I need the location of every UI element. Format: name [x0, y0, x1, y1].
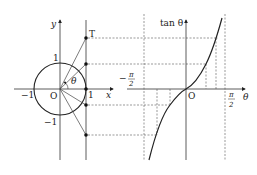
unit-circle-plot: y x O −1 1 1 −1 T θ [14, 19, 113, 160]
right-y-axis-label: tan θ [160, 18, 183, 28]
tick-x-neg-1: −1 [21, 90, 34, 100]
point-T [84, 36, 88, 40]
half-pi-num: π [228, 91, 234, 99]
neg-half-pi-den: 2 [128, 80, 134, 88]
left-origin-label: O [50, 91, 57, 101]
point-tangent-5 [84, 133, 88, 137]
ray-3 [60, 89, 86, 105]
tick-y-pos-1: 1 [53, 53, 59, 63]
tangent-diagram: y x O −1 1 1 −1 T θ tan θ θ O [0, 0, 257, 175]
tan-graph: tan θ θ O − π 2 π 2 [119, 14, 249, 160]
point-tangent-2 [84, 62, 88, 66]
right-x-axis-label: θ [243, 92, 249, 102]
left-x-axis-label: x [106, 90, 111, 100]
half-pi-den: 2 [228, 101, 234, 109]
point-T-label: T [89, 29, 95, 39]
connector-dashes [88, 38, 218, 135]
left-y-axis-label: y [50, 19, 57, 29]
angle-theta-label: θ [71, 76, 77, 86]
tick-x-pos-1: 1 [88, 90, 94, 100]
ray-4 [60, 89, 86, 135]
point-tangent-4 [84, 103, 88, 107]
tick-y-neg-1: −1 [44, 117, 57, 127]
neg-half-pi-sign: − [119, 73, 127, 83]
neg-half-pi-num: π [128, 71, 134, 79]
right-origin-label: O [188, 91, 195, 101]
